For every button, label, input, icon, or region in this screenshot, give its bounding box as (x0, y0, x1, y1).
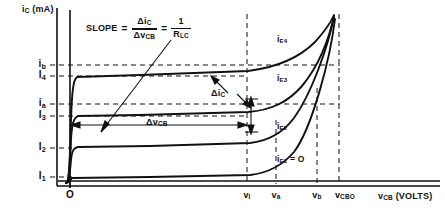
y-tick-label-i-b: ib (24, 59, 46, 70)
delta-vcb-base: Δv (146, 117, 158, 127)
y-tick-sub-I-4: 4 (42, 73, 46, 82)
y-tick-sub-i-a: a (42, 101, 46, 110)
delta-vcb-label: ΔvCB (146, 118, 168, 128)
slope-rhs-den-base: R (173, 29, 180, 39)
curve-label-sub-i-E3: E3 (280, 76, 288, 83)
slope-fraction-right-denominator: RLC (171, 30, 191, 40)
curve-label-i-E4: iE4 (277, 35, 287, 44)
y-axis-title: iC (mA) (22, 5, 54, 15)
y-axis-title-subscript: C (25, 7, 30, 14)
slope-fraction-left-denominator: ΔvCB (132, 31, 158, 41)
delta-vcb-sub: CB (158, 120, 168, 127)
figure-collector-characteristics: iC (mA) vCB (VOLTS) O ib I4 ia I3 I2 I1 … (0, 0, 445, 214)
x-axis-title: vCB (VOLTS) (378, 192, 432, 202)
delta-ic-sub: C (220, 91, 225, 98)
slope-fraction-left: ΔiC ΔvCB (132, 17, 158, 41)
y-tick-sub-I-1: 1 (42, 174, 46, 183)
slope-fraction-left-numerator: ΔiC (135, 17, 153, 27)
y-tick-label-i-a: ia (24, 98, 46, 109)
slope-rhs-den-sub: LC (180, 33, 189, 40)
curve-label-sub-i-E2: E2 (280, 124, 288, 131)
curve-label-suffix-i-E1: = O (287, 154, 304, 164)
slope-formula: SLOPE = ΔiC ΔvCB = 1 RLC (86, 17, 191, 41)
slope-fraction-right: 1 RLC (171, 17, 191, 40)
slope-leader-arrowhead (101, 121, 109, 132)
x-tick-label-v-1: vI (234, 191, 260, 201)
x-axis-title-subscript: CB (383, 194, 393, 201)
delta-ic-arrowhead-bottom (248, 125, 254, 134)
slope-equals-2: = (160, 24, 168, 34)
x-tick-sub-v-1: I (249, 193, 251, 200)
plot-canvas (0, 0, 445, 214)
delta-ic-label: ΔiC (211, 89, 225, 99)
slope-den-base: Δv (134, 30, 146, 40)
y-tick-label-I-1: I1 (24, 171, 46, 182)
x-tick-label-v-b: vb (304, 191, 330, 201)
origin-label: O (66, 190, 74, 200)
curve-label-i-E2: iE2 (277, 122, 287, 131)
curve-label-sub-i-E4: E4 (280, 37, 288, 44)
slope-den-sub: CB (145, 33, 155, 40)
x-tick-sub-v-cbo: CBO (340, 193, 355, 200)
y-tick-label-I-4: I4 (24, 70, 46, 81)
curve-label-i-E3: iE3 (277, 74, 287, 83)
delta-vcb-arrowhead-right (238, 122, 247, 128)
x-tick-sub-v-b: b (318, 193, 322, 200)
y-axis-title-unit: (mA) (32, 4, 53, 14)
slope-fraction-right-numerator: 1 (176, 17, 185, 26)
slope-num-base: Δi (137, 16, 146, 26)
x-tick-sub-v-a: a (277, 193, 281, 200)
slope-word: SLOPE (86, 24, 118, 33)
slope-num-sub: C (147, 19, 152, 26)
curve-label-i-E1: iE1 = O (277, 155, 305, 164)
y-tick-sub-I-3: 3 (42, 113, 46, 122)
delta-ic-leader-line (237, 94, 251, 108)
y-tick-label-I-2: I2 (24, 142, 46, 153)
slope-equals-1: = (121, 24, 129, 34)
x-axis-title-unit: (VOLTS) (396, 191, 433, 201)
x-tick-label-v-a: va (263, 191, 289, 201)
delta-ic-base: Δi (211, 88, 220, 98)
y-tick-sub-I-2: 2 (42, 145, 46, 154)
y-tick-label-I-3: I3 (24, 110, 46, 121)
x-tick-label-v-cbo: vCBO (328, 191, 362, 201)
